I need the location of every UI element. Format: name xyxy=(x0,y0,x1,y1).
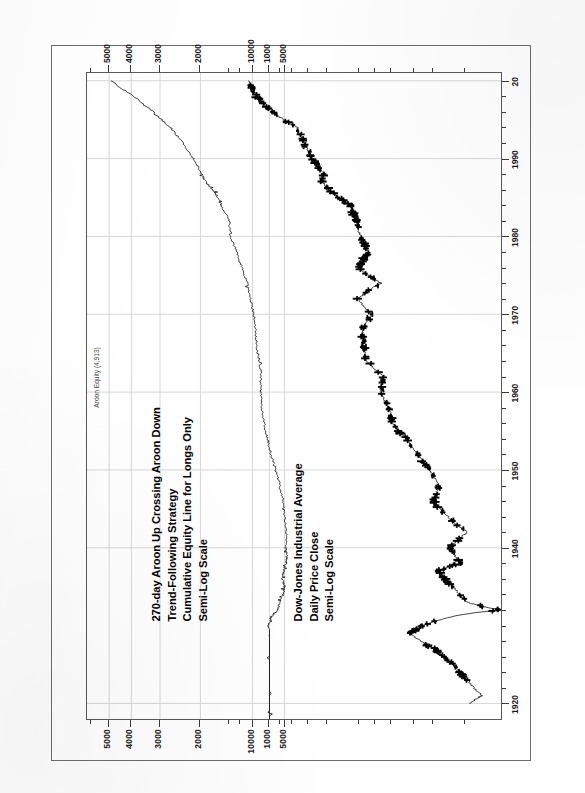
value-axis-label-mirror: 5000 xyxy=(278,44,287,63)
lower-panel-title: Dow-Jones Industrial Average Daily Price… xyxy=(291,463,338,621)
time-axis-tick xyxy=(502,672,506,673)
aroon-equity-tag: Aroon Equity (4,913) xyxy=(93,347,100,407)
axis-tick xyxy=(374,720,375,724)
axis-tick xyxy=(357,720,358,724)
time-axis-tick xyxy=(502,111,506,112)
axis-tick xyxy=(278,720,279,724)
axis-tick xyxy=(325,720,326,724)
scanned-page: 10002000300040005000500010000 1000200030… xyxy=(0,0,585,793)
time-axis: 192019401950196019701980199020 xyxy=(502,72,532,720)
time-axis-tick xyxy=(502,392,509,393)
time-axis-tick xyxy=(502,687,506,688)
value-axis-right: 10002000300040005000500010000 xyxy=(86,42,502,72)
time-axis-tick xyxy=(502,703,509,704)
time-axis-tick xyxy=(502,438,506,439)
upper-title-line-3: Cumulative Equity Line for Longs Only xyxy=(180,407,196,621)
axis-tick xyxy=(228,720,229,724)
time-axis-tick xyxy=(502,376,506,377)
time-axis-tick xyxy=(502,532,506,533)
time-axis-tick xyxy=(502,516,506,517)
axis-tick xyxy=(199,65,200,72)
time-axis-tick xyxy=(502,501,506,502)
axis-tick xyxy=(307,68,308,72)
value-axis-left: 10002000300040005000500010000 xyxy=(86,720,502,760)
axis-tick xyxy=(130,65,131,72)
axis-tick xyxy=(464,720,465,724)
value-axis-label-mirror: 5000 xyxy=(103,44,112,63)
value-axis-label-mirror: 4000 xyxy=(125,44,134,63)
time-axis-tick xyxy=(502,205,506,206)
axis-tick xyxy=(413,68,414,72)
time-axis-tick xyxy=(502,96,506,97)
axis-tick xyxy=(432,720,433,724)
axis-tick xyxy=(307,720,308,724)
axis-tick xyxy=(159,65,160,72)
time-axis-label: 1940 xyxy=(511,539,520,558)
axis-tick xyxy=(251,720,252,727)
time-axis-tick xyxy=(502,656,506,657)
time-axis-tick xyxy=(502,469,509,470)
rotated-chart-canvas: 10002000300040005000500010000 1000200030… xyxy=(33,27,553,767)
axis-tick xyxy=(130,720,131,727)
time-axis-label: 1980 xyxy=(511,227,520,246)
value-axis-label-mirror: 2000 xyxy=(194,44,203,63)
axis-tick xyxy=(278,68,279,72)
axis-tick xyxy=(389,720,390,724)
time-axis-tick xyxy=(502,314,509,315)
axis-tick xyxy=(108,65,109,72)
time-axis-tick xyxy=(502,143,506,144)
axis-tick xyxy=(228,68,229,72)
time-axis-tick xyxy=(502,236,509,237)
plot-area: Aroon Equity (4,913) 270-day Aroon Up Cr… xyxy=(86,72,502,720)
time-axis-tick xyxy=(502,547,509,548)
value-axis-label: 4000 xyxy=(125,729,134,749)
time-axis-tick xyxy=(502,485,506,486)
value-axis-label: 5000 xyxy=(103,729,112,749)
lower-title-line-2: Daily Price Close xyxy=(306,463,322,621)
time-axis-tick xyxy=(502,220,506,221)
time-axis-tick xyxy=(502,267,506,268)
time-axis-tick xyxy=(502,127,506,128)
time-axis-label: 1970 xyxy=(511,305,520,324)
value-axis-label: 2000 xyxy=(194,729,203,749)
upper-panel-title: 270-day Aroon Up Crossing Aroon Down Tre… xyxy=(149,407,211,621)
time-axis-label: 1990 xyxy=(511,150,520,169)
axis-tick xyxy=(432,68,433,72)
axis-tick xyxy=(290,720,291,724)
axis-tick xyxy=(389,68,390,72)
chart-outer-frame: 10002000300040005000500010000 1000200030… xyxy=(51,45,531,761)
time-axis-tick xyxy=(502,578,506,579)
time-axis-tick xyxy=(502,283,506,284)
axis-tick xyxy=(108,720,109,727)
value-axis-label-mirror: 3000 xyxy=(154,44,163,63)
time-axis-label: 1950 xyxy=(511,461,520,480)
value-axis-label-mirror: 10000 xyxy=(246,39,255,63)
time-axis-tick xyxy=(502,252,506,253)
time-axis-tick xyxy=(502,641,506,642)
time-axis-tick xyxy=(502,298,506,299)
time-axis-tick xyxy=(502,360,506,361)
time-axis-tick xyxy=(502,625,506,626)
time-axis-tick xyxy=(502,594,506,595)
time-axis-tick xyxy=(502,80,509,81)
value-axis-label-mirror: 1000 xyxy=(263,44,272,63)
time-axis-tick xyxy=(502,610,506,611)
time-axis-tick xyxy=(502,158,509,159)
axis-tick xyxy=(325,68,326,72)
time-axis-tick xyxy=(502,329,506,330)
value-axis-label: 3000 xyxy=(154,729,163,749)
value-axis-label: 5000 xyxy=(278,729,287,749)
time-axis-tick xyxy=(502,563,506,564)
axis-tick xyxy=(374,68,375,72)
time-axis-tick xyxy=(502,174,506,175)
axis-tick xyxy=(357,68,358,72)
time-axis-label: 20 xyxy=(511,77,520,86)
time-axis-tick xyxy=(502,345,506,346)
time-axis-tick xyxy=(502,407,506,408)
axis-tick xyxy=(464,68,465,72)
axis-tick xyxy=(283,65,284,72)
axis-tick xyxy=(239,720,240,724)
lower-title-line-3: Semi-Log Scale xyxy=(322,463,338,621)
upper-title-line-1: 270-day Aroon Up Crossing Aroon Down xyxy=(149,407,165,621)
time-axis-label: 1920 xyxy=(511,694,520,713)
